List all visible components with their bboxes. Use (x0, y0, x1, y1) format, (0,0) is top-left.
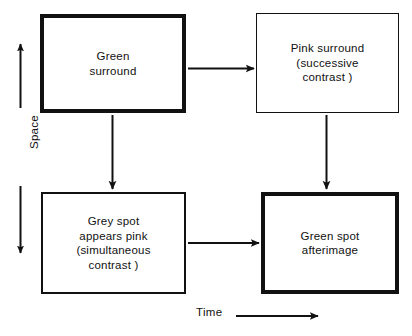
node-green-surround-label: Green surround (86, 49, 141, 78)
node-pink-surround: Pink surround (successive contrast ) (256, 13, 399, 113)
space-axis-label: Space (28, 102, 40, 162)
time-axis-label: Time (196, 306, 222, 318)
node-green-surround: Green surround (40, 14, 186, 113)
flow-diagram: Green surround Pink surround (successive… (0, 0, 412, 336)
node-grey-spot-label: Grey spot appears pink (simultaneous con… (72, 214, 154, 272)
node-pink-surround-label: Pink surround (successive contrast ) (287, 41, 369, 85)
node-green-afterimage: Green spot afterimage (261, 192, 399, 294)
node-green-afterimage-label: Green spot afterimage (297, 229, 364, 258)
node-grey-spot: Grey spot appears pink (simultaneous con… (41, 192, 186, 294)
